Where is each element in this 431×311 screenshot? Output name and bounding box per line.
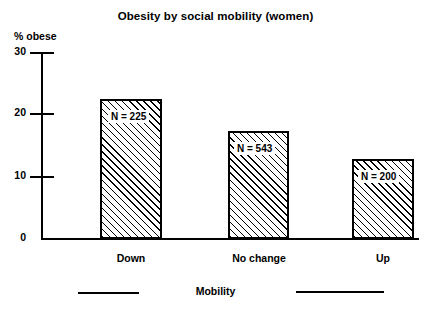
x-tick-label-no-change: No change — [218, 252, 300, 264]
bar-label-down: N = 225 — [108, 110, 149, 123]
bar-label-up: N = 200 — [358, 170, 399, 183]
chart-figure: Obesity by social mobility (women) % obe… — [0, 0, 431, 311]
x-tick-label-up: Up — [343, 252, 423, 264]
y-tick-mark-30 — [30, 52, 54, 54]
y-tick-label-20: 20 — [0, 107, 26, 118]
y-tick-mark-20 — [30, 113, 54, 115]
y-tick-label-0: 0 — [0, 232, 26, 243]
y-tick-label-30: 30 — [0, 46, 26, 57]
y-axis-line — [41, 52, 43, 240]
y-axis-label: % obese — [14, 30, 57, 42]
x-tick-label-down: Down — [91, 252, 171, 264]
y-tick-label-10: 10 — [0, 170, 26, 181]
right-rule-line — [296, 291, 384, 293]
y-tick-mark-10 — [30, 176, 54, 178]
bar-label-no-change: N = 543 — [234, 142, 275, 155]
left-rule-line — [78, 292, 139, 294]
chart-title: Obesity by social mobility (women) — [0, 10, 431, 22]
